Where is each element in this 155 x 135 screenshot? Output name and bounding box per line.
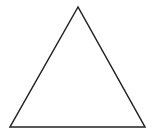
triangle-shape — [10, 7, 145, 127]
triangle-diagram — [0, 0, 155, 135]
diagram-canvas — [0, 0, 155, 135]
